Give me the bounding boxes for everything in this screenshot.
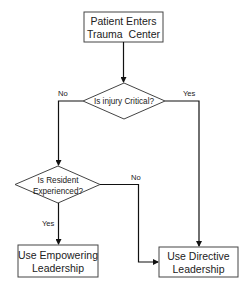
decision-experienced-label-line1: Is Resident xyxy=(38,176,80,185)
label-critical-no: No xyxy=(58,89,68,98)
edge-critical-no xyxy=(59,101,84,165)
label-critical-yes: Yes xyxy=(183,89,196,98)
directive-node: Use Directive Leadership xyxy=(159,247,238,277)
flowchart: Patient Enters Trauma Center Is injury C… xyxy=(0,0,245,292)
edge-critical-yes xyxy=(165,101,199,246)
start-label-line2: Trauma Center xyxy=(87,28,161,40)
start-label-line1: Patient Enters xyxy=(91,15,157,27)
decision-critical-label: Is injury Critical? xyxy=(94,97,155,106)
start-node: Patient Enters Trauma Center xyxy=(84,12,163,42)
directive-label-line1: Use Directive xyxy=(167,250,230,262)
decision-experienced-label-line2: Experienced? xyxy=(33,187,84,196)
label-experienced-yes: Yes xyxy=(42,219,55,228)
decision-experienced-node: Is Resident Experienced? xyxy=(15,166,100,203)
empowering-label-line2: Leadership xyxy=(32,262,84,274)
empowering-label-line1: Use Empowering xyxy=(18,249,98,261)
directive-label-line2: Leadership xyxy=(173,263,225,275)
edge-experienced-no xyxy=(100,185,158,263)
decision-critical-node: Is injury Critical? xyxy=(83,83,165,119)
empowering-node: Use Empowering Leadership xyxy=(18,245,98,277)
label-experienced-no: No xyxy=(131,173,141,182)
